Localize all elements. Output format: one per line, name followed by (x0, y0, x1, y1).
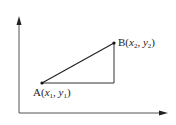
y-axis-arrow-icon (17, 16, 22, 25)
label-point-B: B(x2, y2) (118, 36, 155, 50)
hypotenuse-AB (42, 43, 114, 83)
label-point-A: A(x1, y1) (33, 86, 71, 100)
coordinate-diagram: A(x1, y1) B(x2, y2) (0, 0, 176, 125)
point-B (112, 41, 115, 44)
x-axis-arrow-icon (159, 111, 168, 116)
point-A (40, 81, 43, 84)
